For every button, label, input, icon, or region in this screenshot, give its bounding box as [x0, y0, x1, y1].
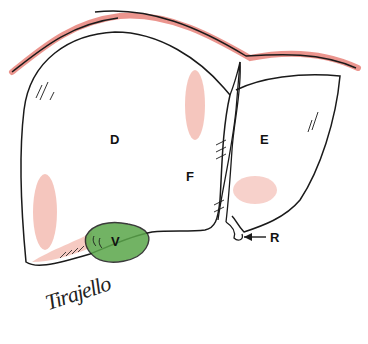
label-e: E: [260, 133, 269, 146]
label-d: D: [110, 133, 119, 146]
arrow-head-icon: [244, 233, 252, 241]
label-r: R: [270, 231, 279, 244]
surface-highlights: [36, 82, 318, 132]
left-lobe-shade: [233, 176, 277, 204]
right-lobe-shade-2: [33, 174, 57, 250]
label-f: F: [186, 170, 194, 183]
diaphragm-outline-upper: [95, 11, 356, 68]
diaphragm-outline-lower: [12, 18, 118, 72]
left-lobe-outline: [232, 75, 340, 232]
right-lobe-shade-1: [185, 70, 205, 140]
liver-diagram: D E F V R Tirajello: [0, 0, 368, 344]
round-ligament: [226, 222, 242, 240]
label-v: V: [111, 235, 120, 248]
diaphragm-band: [12, 16, 358, 72]
